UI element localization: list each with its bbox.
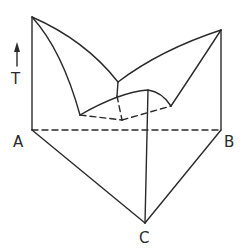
temperature-arrow-head-icon	[14, 42, 20, 52]
edge-c-vertical	[145, 90, 148, 223]
liquidus-curve-b-front	[171, 30, 221, 106]
liquidus-curve-c	[80, 90, 171, 115]
base-edge-ac	[32, 130, 145, 223]
eutectic-valley-ab-dashed	[117, 96, 122, 120]
binary-eutectic-ab-line	[117, 82, 118, 96]
vertex-label-c: C	[139, 229, 149, 247]
axis-label-temperature: T	[10, 70, 21, 88]
liquidus-curve-b-back	[118, 30, 221, 82]
base-edge-bc	[145, 130, 221, 223]
liquidus-curve-a-front	[32, 17, 80, 115]
vertex-label-b: B	[224, 133, 234, 151]
eutectic-valley-ac	[80, 115, 122, 120]
ternary-phase-diagram: T A B C	[0, 0, 245, 252]
liquidus-curve-a-back	[32, 17, 118, 82]
vertex-label-a: A	[13, 133, 24, 151]
eutectic-valley-bc	[122, 106, 171, 120]
